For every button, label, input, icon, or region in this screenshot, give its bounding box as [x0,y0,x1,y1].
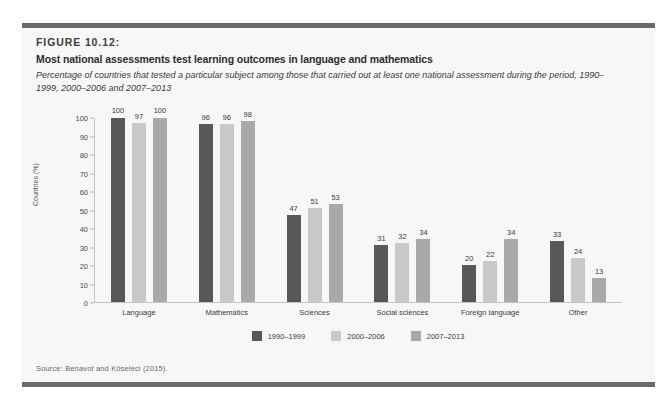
legend-swatch [252,331,262,341]
bar-column[interactable]: 34 [416,118,430,302]
bar[interactable] [241,121,255,302]
bar-value-label: 22 [486,250,494,259]
y-axis-tick-label: 90 [80,132,88,141]
legend-item[interactable]: 2000–2006 [331,331,385,341]
bar-value-label: 34 [419,228,427,237]
figure-number: FIGURE 10.12: [36,36,636,48]
y-axis-tick-label: 100 [75,114,88,123]
bar[interactable] [395,243,409,302]
bar-column[interactable]: 98 [241,118,255,302]
legend-label: 2007–2013 [427,332,465,341]
bar[interactable] [483,261,497,302]
bar-column[interactable]: 96 [220,118,234,302]
bar[interactable] [199,124,213,302]
bar-value-label: 100 [154,106,167,115]
bar[interactable] [462,265,476,302]
bar-value-label: 47 [289,204,297,213]
bar-value-label: 13 [595,267,603,276]
x-axis-category-label: Language [122,308,155,317]
figure-header: FIGURE 10.12: Most national assessments … [36,36,636,95]
bar-column[interactable]: 22 [483,118,497,302]
y-axis-tick-label: 80 [80,151,88,160]
bar-column[interactable]: 32 [395,118,409,302]
bar-value-label: 53 [331,193,339,202]
y-axis-tick-label: 70 [80,169,88,178]
source-note: Source: Benavot and Köseleci (2015). [36,364,168,373]
bar-column[interactable]: 24 [571,118,585,302]
bar[interactable] [374,245,388,302]
legend-swatch [411,331,421,341]
bar-group: 332413Other [534,118,622,302]
bar[interactable] [220,124,234,302]
bar[interactable] [504,239,518,302]
bar-value-label: 98 [244,110,252,119]
bar-value-label: 96 [223,113,231,122]
legend-item[interactable]: 1990–1999 [252,331,306,341]
figure-title: Most national assessments test learning … [36,53,636,65]
bar-column[interactable]: 34 [504,118,518,302]
bar-group: 969698Mathematics [183,118,271,302]
y-axis-tick-label: 10 [80,280,88,289]
bar-column[interactable]: 33 [550,118,564,302]
plot-area: 10097100Language969698Mathematics475153S… [94,118,622,303]
bar-value-label: 100 [112,106,125,115]
bar-value-label: 96 [202,113,210,122]
legend-swatch [331,331,341,341]
bar-column[interactable]: 53 [329,118,343,302]
bottom-rule [22,382,655,387]
bar-value-label: 33 [553,230,561,239]
y-axis-tick-label: 0 [84,299,88,308]
bar-chart: Countries (%) 0102030405060708090100 100… [36,118,636,333]
x-axis-category-label: Mathematics [205,308,248,317]
bar-column[interactable]: 100 [111,118,125,302]
bar-column[interactable]: 13 [592,118,606,302]
y-axis-ticks: 0102030405060708090100 [54,118,94,303]
bar-group: 475153Sciences [271,118,359,302]
y-axis-tick-label: 50 [80,206,88,215]
y-axis-tick-label: 60 [80,188,88,197]
bar-group: 10097100Language [95,118,183,302]
legend-item[interactable]: 2007–2013 [411,331,465,341]
bar[interactable] [592,278,606,302]
bar-value-label: 97 [135,112,143,121]
legend-label: 2000–2006 [347,332,385,341]
bar-column[interactable]: 20 [462,118,476,302]
bar-column[interactable]: 47 [287,118,301,302]
bar-groups: 10097100Language969698Mathematics475153S… [95,118,622,302]
bar-group: 202234Foreign language [446,118,534,302]
bar[interactable] [329,204,343,302]
bar-value-label: 20 [465,254,473,263]
bar[interactable] [287,215,301,302]
bar[interactable] [416,239,430,302]
bar-group: 313234Social sciences [358,118,446,302]
x-axis-category-label: Sciences [299,308,329,317]
bar[interactable] [111,118,125,302]
figure-panel: FIGURE 10.12: Most national assessments … [22,23,655,387]
bar-value-label: 34 [507,228,515,237]
bar[interactable] [550,241,564,302]
bar-value-label: 24 [574,247,582,256]
bar-column[interactable]: 51 [308,118,322,302]
bar-column[interactable]: 100 [153,118,167,302]
y-axis-tick-label: 30 [80,243,88,252]
legend-label: 1990–1999 [268,332,306,341]
bar[interactable] [153,118,167,302]
y-axis-tick-label: 40 [80,225,88,234]
x-axis-category-label: Foreign language [461,308,519,317]
bar-column[interactable]: 97 [132,118,146,302]
chart-legend: 1990–19992000–20062007–2013 [94,331,622,341]
top-rule [22,23,655,28]
x-axis-category-label: Social sciences [377,308,429,317]
bar-value-label: 31 [377,234,385,243]
bar-value-label: 32 [398,232,406,241]
bar[interactable] [571,258,585,302]
bar-column[interactable]: 96 [199,118,213,302]
figure-subtitle: Percentage of countries that tested a pa… [36,69,611,95]
bar[interactable] [308,208,322,302]
bar[interactable] [132,123,146,302]
y-axis-title: Countries (%) [32,163,39,206]
y-axis-tick-label: 20 [80,262,88,271]
bar-value-label: 51 [310,197,318,206]
bar-column[interactable]: 31 [374,118,388,302]
x-axis-category-label: Other [569,308,588,317]
